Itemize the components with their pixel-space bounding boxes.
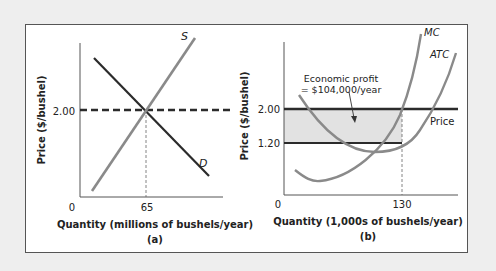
chart-svg: S D 2.00 0 65 Quantity (millions of bush… xyxy=(0,0,496,271)
profit-label-line2: = $104,000/year xyxy=(301,84,382,95)
profit-region xyxy=(284,109,402,143)
panel-b: MC ATC Price Economic profit = $104,000/… xyxy=(239,27,463,242)
y-axis-label-a: Price ($/bushel) xyxy=(36,75,47,164)
demand-label: D xyxy=(199,157,207,170)
y-axis-label-b: Price ($/bushel) xyxy=(239,71,250,160)
supply-curve xyxy=(92,38,195,191)
supply-label: S xyxy=(181,30,188,43)
x-tick-65: 65 xyxy=(141,202,154,213)
x-axis-label-a: Quantity (millions of bushels/year) xyxy=(57,219,253,230)
y-tick-1-20: 1.20 xyxy=(258,138,280,149)
panel-a: S D 2.00 0 65 Quantity (millions of bush… xyxy=(36,30,253,245)
x-tick-zero: 0 xyxy=(69,202,75,213)
demand-curve xyxy=(94,58,209,176)
mc-label: MC xyxy=(424,27,440,38)
y-tick-2-00-b: 2.00 xyxy=(258,104,280,115)
price-label: Price xyxy=(430,116,454,127)
x-tick-zero-b: 0 xyxy=(275,199,281,210)
x-tick-130: 130 xyxy=(392,199,411,210)
x-axis-label-b: Quantity (1,000s of bushels/year) xyxy=(273,216,463,227)
caption-b: (b) xyxy=(360,231,376,242)
profit-label-line1: Economic profit xyxy=(304,73,379,84)
y-tick-2-00: 2.00 xyxy=(53,106,75,117)
caption-a: (a) xyxy=(147,234,163,245)
atc-label: ATC xyxy=(429,49,449,60)
